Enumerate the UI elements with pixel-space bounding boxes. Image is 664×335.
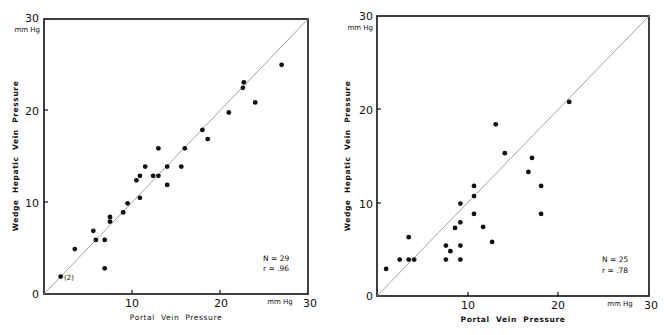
data-point bbox=[444, 243, 449, 248]
data-point bbox=[458, 243, 463, 248]
data-point bbox=[397, 257, 402, 262]
data-point bbox=[453, 226, 458, 231]
left-y-tick-30: 30 bbox=[25, 12, 39, 25]
data-point bbox=[448, 249, 453, 254]
data-point bbox=[72, 247, 77, 252]
data-point bbox=[279, 62, 284, 67]
left-points bbox=[58, 62, 284, 279]
data-point bbox=[458, 220, 463, 225]
left-annotation-duplicate: (2) bbox=[64, 274, 74, 282]
data-point bbox=[205, 137, 210, 142]
data-point bbox=[406, 257, 411, 262]
data-point bbox=[481, 225, 486, 230]
data-point bbox=[539, 184, 544, 189]
data-point bbox=[165, 183, 170, 188]
data-point bbox=[539, 212, 544, 217]
data-point bbox=[102, 238, 107, 243]
right-stat-r: r = .78 bbox=[602, 266, 628, 275]
right-y-tick-0: 0 bbox=[366, 290, 373, 303]
data-point bbox=[134, 178, 139, 183]
left-y-tick-20: 20 bbox=[25, 105, 39, 118]
data-point bbox=[138, 195, 143, 200]
right-identity-line bbox=[377, 16, 649, 296]
left-x-unit: mm Hg bbox=[267, 298, 293, 306]
data-point bbox=[102, 266, 107, 271]
right-y-tick-20: 20 bbox=[359, 104, 373, 117]
data-point bbox=[406, 235, 411, 240]
data-point bbox=[253, 100, 258, 105]
data-point bbox=[458, 201, 463, 206]
left-stat-r: r = .96 bbox=[263, 264, 289, 273]
data-point bbox=[182, 146, 187, 151]
data-point bbox=[125, 201, 130, 206]
right-x-unit: mm Hg bbox=[607, 300, 633, 308]
data-point bbox=[472, 184, 477, 189]
left-x-tick-20: 20 bbox=[214, 297, 228, 310]
left-x-tick-10: 10 bbox=[125, 297, 139, 310]
right-y-tick-30: 30 bbox=[359, 10, 373, 23]
right-x-tick-20: 20 bbox=[551, 299, 565, 312]
data-point bbox=[156, 173, 161, 178]
right-x-tick-10: 10 bbox=[461, 299, 475, 312]
data-point bbox=[490, 240, 495, 245]
right-y-unit: mm Hg bbox=[347, 24, 373, 32]
left-y-unit: mm Hg bbox=[14, 26, 40, 34]
data-point bbox=[526, 170, 531, 175]
data-point bbox=[384, 267, 389, 272]
data-point bbox=[108, 215, 113, 220]
left-x-axis-label: Portal Vein Pressure bbox=[130, 313, 222, 322]
data-point bbox=[472, 212, 477, 217]
left-scatter-chart: 30 mm Hg 20 10 0 10 20 30 mm Hg Portal V… bbox=[0, 0, 332, 335]
data-point bbox=[241, 85, 246, 90]
data-point bbox=[412, 257, 417, 262]
data-point bbox=[58, 274, 63, 279]
data-point bbox=[179, 164, 184, 169]
data-point bbox=[493, 122, 498, 127]
left-y-axis-label: Wedge Hepatic Vein Pressure bbox=[11, 81, 20, 232]
data-point bbox=[143, 164, 148, 169]
left-y-tick-10: 10 bbox=[25, 197, 39, 210]
right-y-axis-label: Wedge Hepatic Vein Pressure bbox=[343, 81, 352, 232]
data-point bbox=[91, 228, 96, 233]
data-point bbox=[94, 238, 99, 243]
right-scatter-chart: 30 mm Hg 20 10 0 10 20 30 mm Hg Portal V… bbox=[332, 0, 664, 335]
right-stat-n: N = 25 bbox=[602, 255, 628, 264]
data-point bbox=[151, 173, 156, 178]
data-point bbox=[472, 194, 477, 199]
data-point bbox=[156, 146, 161, 151]
left-x-tick-30: 30 bbox=[303, 297, 317, 310]
data-point bbox=[108, 219, 113, 224]
data-point bbox=[530, 156, 535, 161]
data-point bbox=[567, 100, 572, 105]
data-point bbox=[121, 210, 126, 215]
data-point bbox=[138, 173, 143, 178]
data-point bbox=[241, 80, 246, 85]
data-point bbox=[502, 151, 507, 156]
right-x-tick-30: 30 bbox=[644, 299, 658, 312]
left-identity-line bbox=[44, 19, 308, 294]
left-y-tick-0: 0 bbox=[32, 288, 39, 301]
left-stat-n: N = 29 bbox=[263, 254, 289, 263]
right-y-tick-10: 10 bbox=[359, 198, 373, 211]
right-x-axis-label: Portal Vein Pressure bbox=[461, 315, 566, 324]
data-point bbox=[165, 164, 170, 169]
data-point bbox=[200, 127, 205, 132]
data-point bbox=[444, 257, 449, 262]
data-point bbox=[458, 257, 463, 262]
data-point bbox=[226, 110, 231, 115]
right-plot-frame bbox=[377, 16, 649, 296]
left-plot-frame bbox=[44, 19, 308, 294]
